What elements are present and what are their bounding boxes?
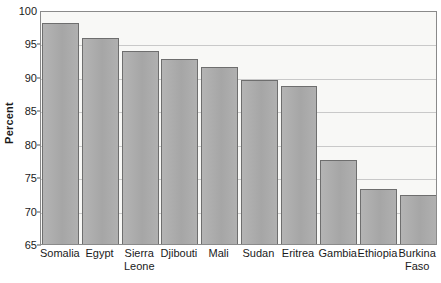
bar[interactable] [161, 59, 198, 244]
x-axis-tick-label: Ethiopia [358, 247, 398, 260]
y-axis-tick-label: 95 [25, 38, 37, 50]
x-axis-tick-label: Mali [199, 247, 239, 260]
plot-area [40, 11, 437, 245]
x-axis-tick-label: Gambia [318, 247, 358, 260]
bar[interactable] [122, 51, 159, 244]
x-axis-tick-label: Somalia [40, 247, 80, 260]
y-axis-tick-label: 80 [25, 139, 37, 151]
x-axis-tick-label: Sudan [239, 247, 279, 260]
bar[interactable] [82, 38, 119, 244]
x-axis-tick-label: Djibouti [159, 247, 199, 260]
y-axis-tick-label: 75 [25, 172, 37, 184]
y-axis-tick-label: 85 [25, 105, 37, 117]
bar[interactable] [281, 86, 318, 244]
bar-series [41, 12, 436, 244]
bar-chart-figure: Percent 65707580859095100 SomaliaEgyptSi… [0, 0, 441, 283]
x-axis-tick-label: Egypt [80, 247, 120, 260]
bar[interactable] [42, 23, 79, 244]
y-axis-tick-label: 70 [25, 206, 37, 218]
bar[interactable] [400, 195, 437, 244]
x-axis-ticks: SomaliaEgyptSierraLeoneDjiboutiMaliSudan… [40, 247, 437, 281]
y-axis-tick-label: 65 [25, 239, 37, 251]
y-axis-tick-label: 90 [25, 72, 37, 84]
bar[interactable] [360, 189, 397, 244]
x-axis-tick-label: Eritrea [278, 247, 318, 260]
bar[interactable] [320, 160, 357, 244]
y-axis-tick-label: 100 [19, 5, 37, 17]
x-axis-tick-label: SierraLeone [119, 247, 159, 273]
y-axis-ticks: 65707580859095100 [14, 0, 40, 283]
x-axis-tick-label: BurkinaFaso [397, 247, 437, 273]
bar[interactable] [241, 80, 278, 244]
bar[interactable] [201, 67, 238, 244]
